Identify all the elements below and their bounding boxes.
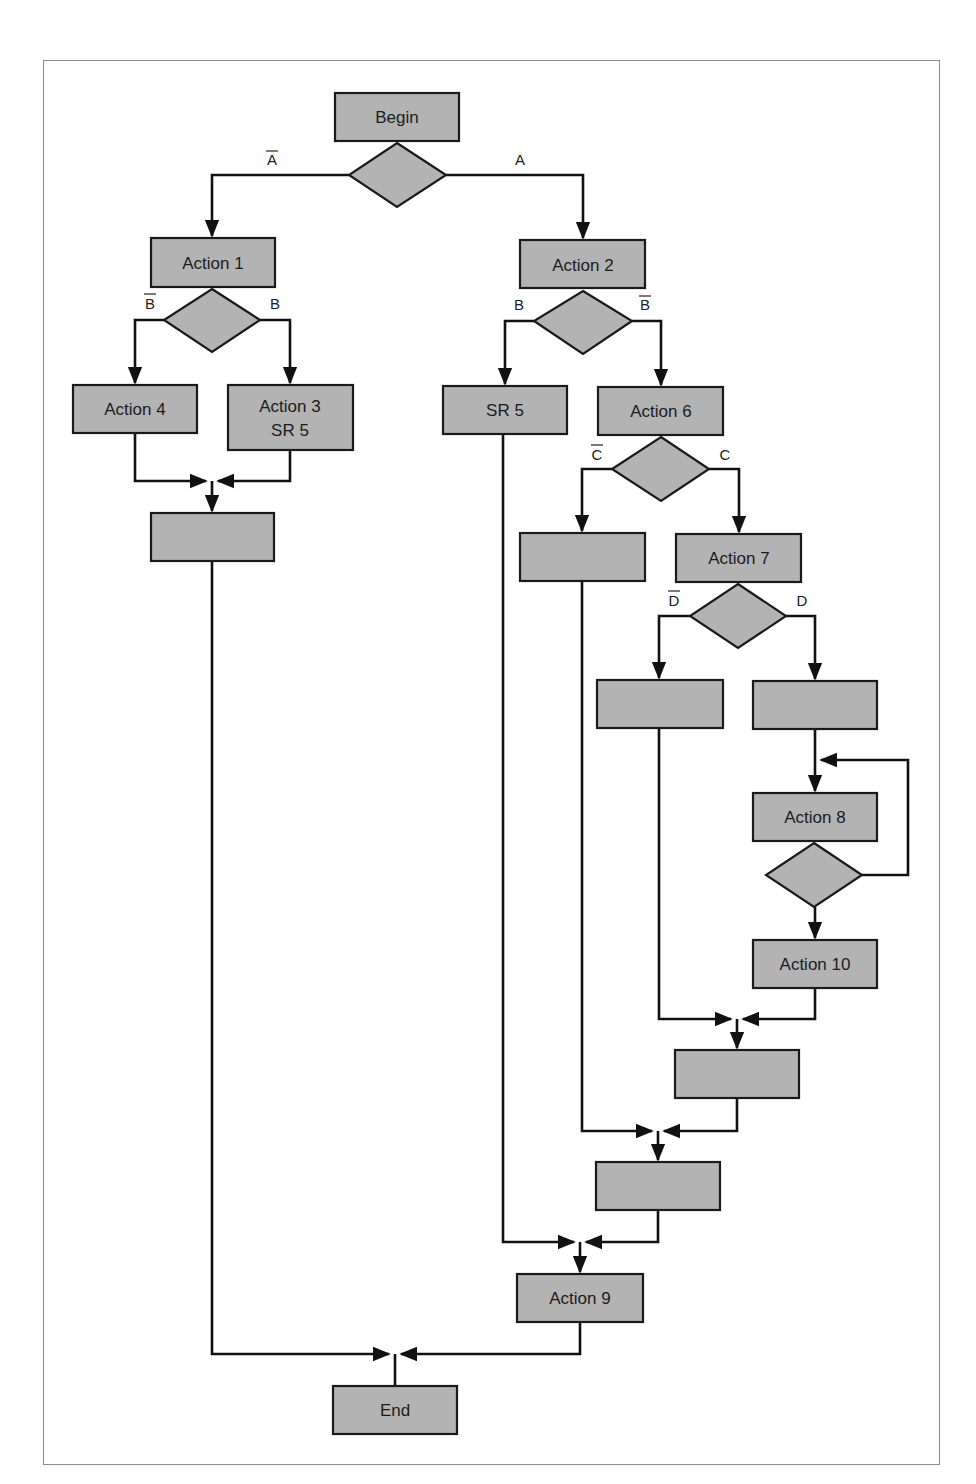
- node-action6-label: Action 6: [630, 402, 691, 421]
- node-action2-label: Action 2: [552, 256, 613, 275]
- edge-d: [786, 616, 815, 679]
- node-action7-label: Action 7: [708, 549, 769, 568]
- edge-d-not: [659, 616, 690, 678]
- edge-c-not: [582, 469, 612, 531]
- edge-action10-merge: [743, 988, 815, 1019]
- node-blank-left: [151, 513, 274, 561]
- node-action8-label: Action 8: [784, 808, 845, 827]
- node-action3-sub-label: SR 5: [271, 421, 309, 440]
- cond-b-left: B: [270, 295, 280, 312]
- node-action1: Action 1: [151, 238, 275, 287]
- cond-a-not: A: [267, 151, 277, 168]
- node-blank-d-not: [597, 680, 723, 728]
- cond-b-not-right: B: [640, 296, 650, 313]
- node-action1-label: Action 1: [182, 254, 243, 273]
- decision-a: [349, 143, 446, 207]
- node-sr5-label: SR 5: [486, 401, 524, 420]
- node-action9: Action 9: [517, 1274, 643, 1322]
- node-blank-c-not: [520, 533, 645, 581]
- edge-b-not-left: [135, 320, 164, 383]
- edge-c-not-down: [582, 581, 652, 1131]
- decision-b-right: [534, 291, 632, 354]
- flowchart: Begin Action 1 Action 2 Action 4 Action …: [0, 0, 976, 1484]
- node-action6: Action 6: [598, 387, 723, 435]
- node-action7: Action 7: [676, 534, 801, 582]
- node-blank-d: [753, 681, 877, 729]
- node-end: End: [333, 1386, 457, 1434]
- edge-c: [709, 469, 739, 532]
- edge-d-not-down: [659, 728, 731, 1019]
- cond-c: C: [720, 446, 731, 463]
- edge-left-to-end: [212, 561, 389, 1354]
- node-action3-sr5: Action 3 SR 5: [228, 385, 353, 450]
- edge-merge-c-box-out: [586, 1210, 658, 1242]
- edge-a-not: [212, 175, 349, 236]
- node-action3-label: Action 3: [259, 397, 320, 416]
- node-begin: Begin: [335, 93, 459, 141]
- cond-b-right: B: [514, 296, 524, 313]
- cond-d-not: D: [669, 592, 680, 609]
- edge-b-not-right: [632, 321, 661, 385]
- edge-action4-merge: [135, 433, 206, 481]
- node-action8: Action 8: [753, 793, 877, 841]
- node-blank-merge-d: [675, 1050, 799, 1098]
- node-end-label: End: [380, 1401, 410, 1420]
- node-action4: Action 4: [73, 385, 197, 433]
- node-blank-merge-c: [596, 1162, 720, 1210]
- node-action2: Action 2: [520, 240, 645, 288]
- edge-a: [446, 175, 583, 238]
- decision-loop: [766, 843, 862, 907]
- edge-b-left: [260, 320, 290, 383]
- edge-action9-out: [401, 1322, 580, 1354]
- cond-b-not-left: B: [145, 295, 155, 312]
- cond-a: A: [515, 151, 525, 168]
- node-action10-label: Action 10: [780, 955, 851, 974]
- edge-merge-d-box-out: [664, 1098, 737, 1131]
- node-begin-label: Begin: [375, 108, 418, 127]
- decision-b-left: [164, 289, 260, 352]
- edge-action3-merge: [218, 450, 290, 481]
- node-action4-label: Action 4: [104, 400, 165, 419]
- node-action10: Action 10: [753, 940, 877, 988]
- cond-d: D: [797, 592, 808, 609]
- decision-d: [690, 584, 786, 648]
- decision-c: [612, 437, 709, 501]
- cond-c-not: C: [592, 446, 603, 463]
- node-sr5: SR 5: [443, 386, 567, 434]
- edge-b-right: [505, 321, 534, 384]
- node-action9-label: Action 9: [549, 1289, 610, 1308]
